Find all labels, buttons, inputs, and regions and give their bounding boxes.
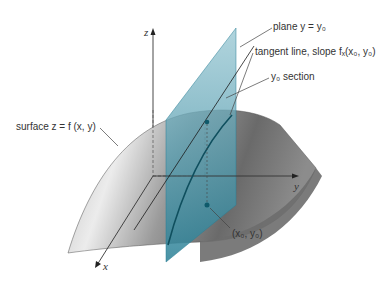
y-axis-label: y — [294, 180, 299, 192]
surface-label: surface z = f (x, y) — [16, 121, 96, 132]
section-label: y₀ section — [271, 71, 315, 82]
x-axis-label: x — [103, 260, 108, 272]
partial-derivative-diagram — [0, 0, 391, 281]
z-axis-label: z — [144, 26, 148, 38]
point-label: (x₀, y₀) — [232, 228, 263, 239]
surface-point — [205, 120, 210, 125]
tangent-line-label: tangent line, slope fₓ(x₀, y₀) — [255, 46, 376, 57]
base-point — [205, 203, 210, 208]
plane-label: plane y = y₀ — [273, 21, 326, 32]
